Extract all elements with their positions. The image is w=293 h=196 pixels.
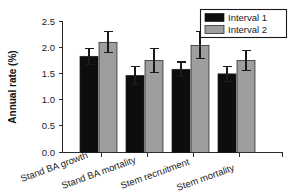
y-tick-label: 0.0 [42,147,55,158]
y-axis-tick-labels: 2.5 2.0 1.5 1.0 0.5 0.0 [42,16,55,158]
bar-group-stem-mortality [218,51,255,153]
y-tick-label: 1.5 [42,68,55,79]
bar-group-stand-ba-growth [80,32,117,153]
bar-group-stand-ba-mortality [126,49,163,153]
y-axis-title: Annual rate (%) [7,50,18,123]
bar-interval1-stand-ba-growth [80,56,98,152]
chart-figure: 2.5 2.0 1.5 1.0 0.5 0.0 Annual rate (%) [0,0,293,196]
legend-swatch-interval-2 [205,26,224,34]
bar-group-stem-recruitment [172,32,209,153]
y-tick-label: 1.0 [42,94,55,105]
legend-swatch-interval-1 [205,14,224,22]
bar-interval1-stem-mortality [218,74,236,153]
bar-interval2-stem-mortality [237,61,255,153]
bar-interval1-stand-ba-mortality [126,76,144,153]
bar-interval1-stem-recruitment [172,69,190,152]
legend-label-interval-1: Interval 1 [228,12,267,23]
legend-label-interval-2: Interval 2 [228,24,267,35]
bar-interval2-stem-recruitment [191,45,209,152]
y-tick-label: 0.5 [42,120,55,131]
bar-chart-svg: 2.5 2.0 1.5 1.0 0.5 0.0 Annual rate (%) [0,0,293,196]
chart-legend: Interval 1 Interval 2 [201,10,287,38]
y-axis-ticks [59,22,63,153]
bar-interval2-stand-ba-growth [99,42,117,152]
y-tick-label: 2.5 [42,16,55,27]
bar-interval2-stand-ba-mortality [145,61,163,153]
y-tick-label: 2.0 [42,42,55,53]
